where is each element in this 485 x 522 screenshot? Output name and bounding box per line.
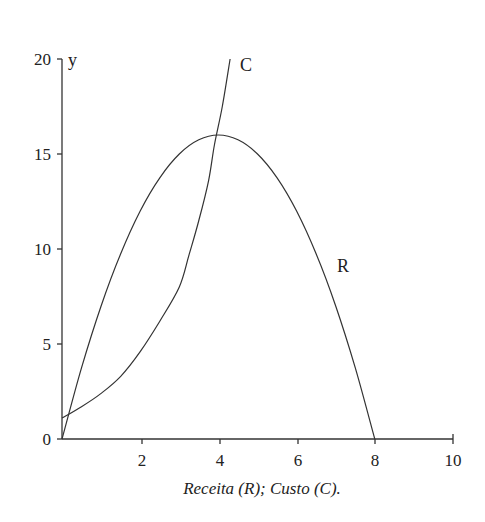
y-tick-15: 15 <box>34 145 51 164</box>
x-tick-6: 6 <box>294 451 303 470</box>
x-tick-10: 10 <box>445 451 462 470</box>
x-axis <box>62 434 453 444</box>
x-tick-4: 4 <box>216 451 225 470</box>
y-axis <box>57 59 62 439</box>
chart-caption: Receita (R); Custo (C). <box>182 479 341 498</box>
curve-r-label: R <box>337 256 349 276</box>
revenue-curve-r <box>62 135 375 439</box>
x-tick-8: 8 <box>371 451 380 470</box>
y-tick-0: 0 <box>43 430 52 449</box>
y-tick-20: 20 <box>34 50 51 69</box>
cost-curve-c <box>62 59 230 418</box>
y-axis-label: y <box>68 50 77 70</box>
y-tick-5: 5 <box>43 335 52 354</box>
curve-c-label: C <box>240 55 252 75</box>
y-tick-labels: 20 15 10 5 0 <box>34 50 51 449</box>
chart-canvas: 20 15 10 5 0 y 2 4 6 8 10 C R Receita (R… <box>0 0 485 522</box>
y-tick-10: 10 <box>34 240 51 259</box>
x-tick-labels: 2 4 6 8 10 <box>138 451 462 470</box>
x-tick-2: 2 <box>138 451 147 470</box>
